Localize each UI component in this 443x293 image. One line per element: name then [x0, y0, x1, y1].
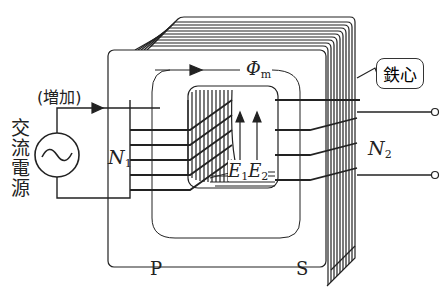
emf2-subscript: 2 [261, 170, 268, 183]
increase-label: (増加) [37, 84, 81, 108]
secondary-side-label: S [296, 258, 308, 279]
primary-turns-label: N1 [108, 146, 132, 168]
primary-side-label: P [150, 258, 162, 279]
flux-label: Φm [246, 58, 271, 79]
secondary-turns-label: N2 [368, 137, 392, 159]
ac-source-label: 交流電源 [6, 118, 33, 198]
terminal-bottom-icon [432, 172, 439, 179]
secondary-turns-subscript: 2 [385, 148, 392, 161]
core-callout: 鉄心 [376, 58, 424, 89]
secondary-turns-symbol: N [368, 137, 385, 159]
emf2-symbol: E [248, 160, 261, 181]
callout-pointer [357, 68, 378, 78]
emf1-symbol: E [228, 160, 241, 181]
primary-turns-symbol: N [108, 146, 125, 168]
primary-turns-subscript: 1 [125, 157, 132, 170]
terminal-top-icon [432, 109, 439, 116]
primary-current-arrow-icon [92, 103, 103, 113]
flux-symbol: Φ [246, 58, 261, 79]
flux-subscript: m [261, 68, 271, 81]
emf1-subscript: 1 [241, 170, 248, 183]
emf-labels: E1E2 [228, 160, 268, 181]
